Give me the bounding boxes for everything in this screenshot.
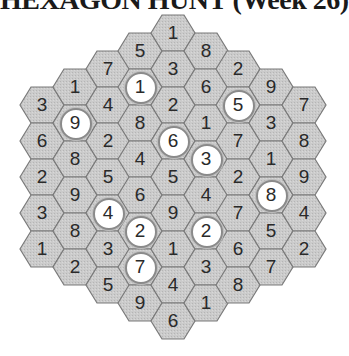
- cell-number: 1: [201, 112, 212, 134]
- hex-cell[interactable]: 7: [282, 87, 326, 123]
- cell-number: 6: [168, 310, 179, 332]
- cell-number: 1: [37, 238, 48, 260]
- cell-number: 2: [70, 256, 81, 278]
- cell-number: 3: [266, 112, 277, 134]
- cell-number: 5: [135, 40, 146, 62]
- cell-number: 4: [103, 94, 114, 116]
- cell-number: 6: [168, 130, 179, 152]
- cell-number: 5: [103, 166, 114, 188]
- cell-number: 4: [299, 202, 310, 224]
- cell-number: 7: [135, 256, 146, 278]
- cell-number: 5: [103, 274, 114, 296]
- cell-number: 2: [233, 166, 244, 188]
- cell-number: 8: [201, 40, 212, 62]
- cell-number: 9: [266, 76, 277, 98]
- cell-number: 3: [201, 256, 212, 278]
- cell-number: 9: [70, 112, 81, 134]
- cell-number: 1: [135, 76, 146, 98]
- cell-number: 4: [168, 274, 179, 296]
- hex-cell[interactable]: 2: [282, 231, 326, 267]
- cell-number: 6: [233, 238, 244, 260]
- cell-number: 8: [233, 274, 244, 296]
- cell-number: 2: [37, 166, 48, 188]
- cell-number: 9: [299, 166, 310, 188]
- cell-number: 7: [266, 256, 277, 278]
- cell-number: 9: [135, 292, 146, 314]
- cell-number: 6: [201, 76, 212, 98]
- cell-number: 2: [201, 220, 212, 242]
- cell-number: 9: [70, 184, 81, 206]
- cell-number: 6: [135, 184, 146, 206]
- cell-number: 2: [233, 58, 244, 80]
- hex-cell[interactable]: 8: [282, 123, 326, 159]
- hex-cell[interactable]: 4: [282, 195, 326, 231]
- cell-number: 1: [168, 238, 179, 260]
- cell-number: 3: [168, 58, 179, 80]
- cell-number: 8: [135, 112, 146, 134]
- cell-number: 5: [168, 166, 179, 188]
- cell-number: 3: [37, 94, 48, 116]
- cell-number: 2: [299, 238, 310, 260]
- cell-number: 3: [37, 202, 48, 224]
- hex-cell[interactable]: 9: [282, 159, 326, 195]
- cell-number: 5: [266, 220, 277, 242]
- cell-number: 8: [70, 220, 81, 242]
- cell-number: 1: [201, 292, 212, 314]
- cell-number: 1: [70, 76, 81, 98]
- cell-number: 7: [233, 202, 244, 224]
- cell-number: 8: [70, 148, 81, 170]
- cell-number: 6: [37, 130, 48, 152]
- cell-number: 2: [168, 94, 179, 116]
- cell-number: 1: [266, 148, 277, 170]
- cell-number: 7: [103, 58, 114, 80]
- cell-number: 8: [266, 184, 277, 206]
- cell-number: 9: [168, 202, 179, 224]
- cell-number: 2: [135, 220, 146, 242]
- cell-number: 4: [135, 148, 146, 170]
- cell-number: 1: [168, 22, 179, 44]
- cell-number: 3: [201, 148, 212, 170]
- cell-number: 5: [233, 94, 244, 116]
- cell-number: 2: [103, 130, 114, 152]
- cell-number: 3: [103, 238, 114, 260]
- cell-number: 4: [201, 184, 212, 206]
- cell-number: 7: [299, 94, 310, 116]
- cell-number: 8: [299, 130, 310, 152]
- cell-number: 7: [233, 130, 244, 152]
- cell-number: 4: [103, 202, 114, 224]
